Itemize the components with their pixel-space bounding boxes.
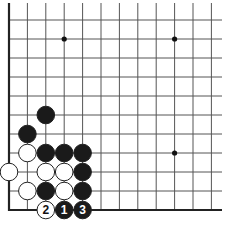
- black-stone: [37, 182, 55, 200]
- black-stone-disc: [74, 163, 92, 181]
- white-stone: [0, 163, 18, 181]
- white-stone-disc: [37, 163, 55, 181]
- white-stone-disc: [55, 182, 73, 200]
- white-stone: [19, 182, 37, 200]
- move-number-label: 3: [79, 203, 86, 217]
- black-stone-disc: [55, 144, 73, 162]
- star-point-icon: [62, 36, 67, 41]
- black-stone: [55, 144, 73, 162]
- black-stone-disc: [74, 144, 92, 162]
- star-point-icon: [172, 150, 177, 155]
- board-edges: [8, 3, 222, 211]
- white-stone: [55, 163, 73, 181]
- white-stone-disc: [0, 163, 18, 181]
- black-stone-disc: [37, 182, 55, 200]
- black-stone-disc: [37, 106, 55, 124]
- star-point-icon: [172, 36, 177, 41]
- black-stone: [19, 125, 37, 143]
- black-stone: [74, 163, 92, 181]
- black-stone-disc: [37, 144, 55, 162]
- white-stone-disc: [19, 144, 37, 162]
- white-stone: 2: [37, 201, 55, 219]
- move-number-label: 1: [61, 203, 68, 217]
- black-stone: [74, 144, 92, 162]
- go-board: 213: [0, 0, 226, 225]
- black-stone: [37, 106, 55, 124]
- move-number-label: 2: [42, 203, 49, 217]
- black-stone-disc: [19, 125, 37, 143]
- black-stone-disc: [74, 182, 92, 200]
- black-stone: 3: [74, 201, 92, 219]
- black-stone: [74, 182, 92, 200]
- black-stone: 1: [55, 201, 73, 219]
- white-stone: [55, 182, 73, 200]
- white-stone-disc: [19, 182, 37, 200]
- white-stone-disc: [55, 163, 73, 181]
- white-stone: [19, 144, 37, 162]
- black-stone: [37, 144, 55, 162]
- white-stone: [37, 163, 55, 181]
